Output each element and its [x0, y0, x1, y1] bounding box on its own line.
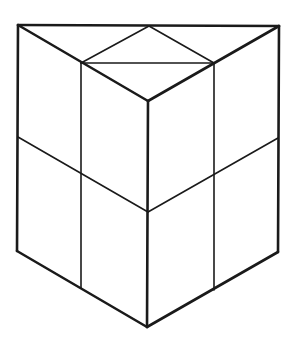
edge-bot_right-to-bot_front [147, 252, 278, 327]
triangular-prism-figure [0, 0, 296, 346]
edge-bot_left-to-bot_front [17, 251, 147, 327]
edge-top_front-to-bot_front [147, 101, 148, 327]
outer-edges [17, 25, 279, 327]
diagram-canvas: Triangular prism divided into smaller tr… [0, 0, 296, 346]
inner-line-top_mid-to-top_inner_right [149, 26, 214, 63]
edge-top_right-to-bot_right [278, 26, 279, 252]
edge-top_left-to-top_right [18, 25, 279, 26]
edge-top_left-to-bot_left [17, 25, 18, 251]
inner-line-top_mid-to-top_inner_left [81, 26, 149, 63]
inner-line-mid_left-to-mid_front [18, 137, 148, 212]
inner-line-mid_right-to-mid_front [148, 138, 278, 212]
